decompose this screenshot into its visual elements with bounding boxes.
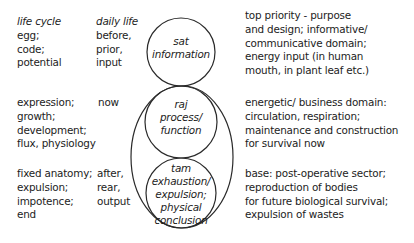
daily-life-heading: daily life — [96, 15, 138, 29]
daily-life-text: input — [96, 56, 138, 70]
life-cycle-text: fixed anatomy; — [17, 167, 92, 181]
life-cycle-column: life cycle egg; code; potential — [17, 15, 61, 70]
tam-subtitle: expulsion; — [141, 188, 221, 201]
description-text: for future biological survival; — [245, 195, 388, 209]
daily-life-text: now — [98, 96, 119, 110]
daily-life-text: rear, — [97, 181, 130, 195]
sat-label: sat information — [141, 35, 221, 61]
daily-life-text: before, — [96, 29, 138, 43]
daily-life-text: after, — [97, 167, 130, 181]
raj-title: raj — [141, 98, 221, 111]
daily-life-column: daily life before, prior, input — [96, 15, 138, 70]
sat-subtitle: information — [141, 48, 221, 61]
life-cycle-text: code; — [17, 43, 61, 57]
tam-title: tam — [141, 162, 221, 175]
life-cycle-bottom: fixed anatomy; expulsion; impotence; end — [17, 167, 92, 222]
description-text: for survival now — [245, 137, 398, 151]
life-cycle-text: impotence; — [17, 195, 92, 209]
description-text: circulation, respiration; — [245, 110, 398, 124]
life-cycle-text: potential — [17, 56, 61, 70]
tam-subtitle: physical — [141, 201, 221, 214]
life-cycle-text: expulsion; — [17, 181, 92, 195]
description-text: communicative domain; — [245, 37, 369, 51]
raj-subtitle: process/ — [141, 111, 221, 124]
life-cycle-text: end — [17, 208, 92, 222]
tam-subtitle: conclusion — [141, 214, 221, 227]
daily-life-text: prior, — [96, 43, 138, 57]
life-cycle-middle: expression; growth; development; flux, p… — [17, 96, 96, 151]
right-description-top: top priority - purpose and design; infor… — [245, 9, 369, 78]
daily-life-bottom: after, rear, output — [97, 167, 130, 208]
life-cycle-text: expression; — [17, 96, 96, 110]
right-description-middle: energetic/ business domain: circulation,… — [245, 96, 398, 151]
description-text: base: post-operative sector; — [245, 167, 388, 181]
daily-life-middle: now — [98, 96, 119, 110]
right-description-bottom: base: post-operative sector; reproductio… — [245, 167, 388, 222]
life-cycle-text: development; — [17, 124, 96, 138]
life-cycle-text: egg; — [17, 29, 61, 43]
daily-life-text: output — [97, 195, 130, 209]
life-cycle-text: growth; — [17, 110, 96, 124]
raj-subtitle: function — [141, 124, 221, 137]
description-text: energetic/ business domain: — [245, 96, 398, 110]
description-text: expulsion of wastes — [245, 208, 388, 222]
life-cycle-heading: life cycle — [17, 15, 61, 29]
description-text: and design; informative/ — [245, 23, 369, 37]
description-text: energy input (in human — [245, 50, 369, 64]
description-text: mouth, in plant leaf etc.) — [245, 64, 369, 78]
sat-title: sat — [141, 35, 221, 48]
tam-label: tam exhaustion/ expulsion; physical conc… — [141, 162, 221, 227]
description-text: maintenance and construction — [245, 124, 398, 138]
life-cycle-text: flux, physiology — [17, 137, 96, 151]
description-text: top priority - purpose — [245, 9, 369, 23]
description-text: reproduction of bodies — [245, 181, 388, 195]
tam-subtitle: exhaustion/ — [141, 175, 221, 188]
raj-label: raj process/ function — [141, 98, 221, 137]
